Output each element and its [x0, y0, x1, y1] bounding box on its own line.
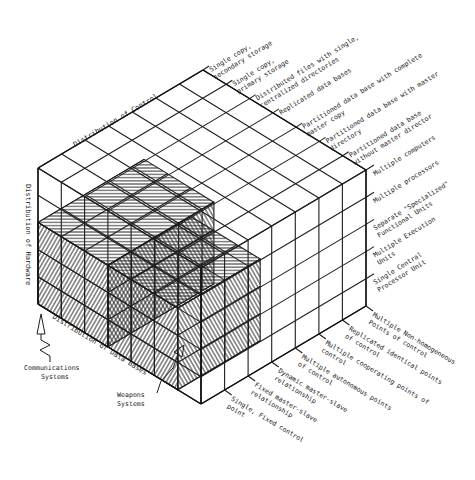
arrow-icon [37, 314, 50, 362]
tick [225, 390, 232, 395]
tick [366, 306, 373, 311]
communications-label-2: Systems [41, 373, 69, 381]
data-base-level-labels: Single copy,secondary storageSingle copy… [208, 33, 440, 167]
hardware-level-label: Separate "Specialized" [372, 180, 451, 232]
tick [248, 376, 255, 381]
hatched-blocks [38, 159, 260, 389]
weapons-label-2: Systems [117, 400, 145, 408]
axis-label-hardware: Distribution of Hardware [24, 184, 32, 285]
distributed-systems-cube-diagram: Distribution of Control Distribution of … [0, 0, 475, 480]
tick [295, 348, 302, 353]
tick [319, 334, 326, 339]
hardware-level-labels: Multiple computersMultiple processorsSep… [372, 134, 451, 294]
tick [342, 320, 349, 325]
weapons-label-1: Weapons [117, 391, 145, 399]
communications-label-1: Communications [24, 364, 80, 372]
control-level-label: Multiple Non-homogeneous [371, 311, 457, 367]
tick [272, 362, 279, 367]
